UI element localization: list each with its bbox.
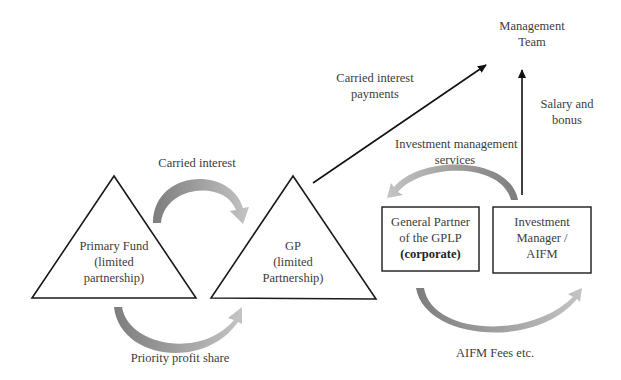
priority-profit-share-label: Priority profit share <box>125 350 235 366</box>
salary-bonus-line-1: Salary and <box>532 96 602 112</box>
investment-manager-line-2: Manager / <box>493 230 591 246</box>
primary-fund-line-1: Primary Fund <box>69 238 159 254</box>
salary-bonus-label: Salary and bonus <box>532 96 602 128</box>
management-team-line-2: Team <box>492 34 572 50</box>
priority-profit-share-text: Priority profit share <box>125 350 235 366</box>
gp-line-3: Partnership) <box>253 270 333 286</box>
primary-fund-line-2: (limited <box>69 254 159 270</box>
gp-line-2: (limited <box>253 254 333 270</box>
aifm-fees-label: AIFM Fees etc. <box>440 345 550 361</box>
investment-management-services-line-1: Investment management <box>395 136 515 152</box>
gp-label: GP (limited Partnership) <box>253 238 333 286</box>
aifm-fees-curved-arrow <box>416 288 582 333</box>
carried-interest-payments-line-1: Carried interest <box>330 70 420 86</box>
investment-management-services-label: Investment management services <box>395 136 515 168</box>
carried-interest-label: Carried interest <box>152 155 242 171</box>
carried-interest-curved-arrow <box>153 179 249 224</box>
investment-management-services-line-2: services <box>395 152 515 168</box>
investment-manager-label: Investment Manager / AIFM <box>493 214 591 262</box>
management-team-label: Management Team <box>492 18 572 50</box>
investment-management-services-curved-arrow <box>387 164 518 200</box>
gp-line-1: GP <box>253 238 333 254</box>
general-partner-corporate: (corporate) <box>382 246 479 262</box>
carried-interest-payments-line-2: payments <box>330 86 420 102</box>
general-partner-line-1: General Partner <box>382 214 479 230</box>
aifm-fees-text: AIFM Fees etc. <box>440 345 550 361</box>
diagram-canvas <box>0 0 621 380</box>
investment-manager-line-3: AIFM <box>493 246 591 262</box>
primary-fund-label: Primary Fund (limited partnership) <box>69 238 159 286</box>
primary-fund-line-3: partnership) <box>69 270 159 286</box>
investment-manager-line-1: Investment <box>493 214 591 230</box>
general-partner-label: General Partner of the GPLP (corporate) <box>382 214 479 262</box>
priority-profit-share-curved-arrow <box>114 307 242 353</box>
salary-bonus-line-2: bonus <box>532 112 602 128</box>
general-partner-line-2: of the GPLP <box>382 230 479 246</box>
carried-interest-text: Carried interest <box>152 155 242 171</box>
carried-interest-payments-label: Carried interest payments <box>330 70 420 102</box>
management-team-line-1: Management <box>492 18 572 34</box>
